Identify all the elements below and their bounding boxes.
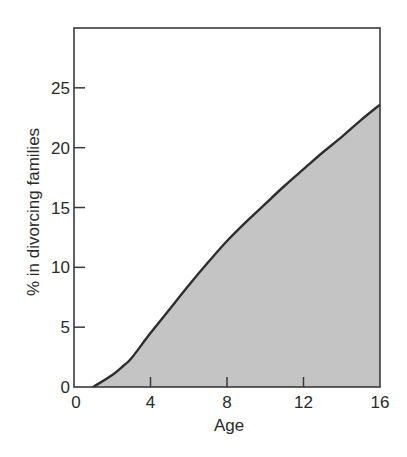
y-tick-label: 10 bbox=[51, 258, 70, 277]
x-tick-label: 8 bbox=[222, 393, 231, 412]
area-fill bbox=[93, 105, 380, 387]
x-tick-label: 12 bbox=[294, 393, 313, 412]
x-tick-label: 0 bbox=[71, 393, 80, 412]
y-axis-label: % in divorcing families bbox=[24, 128, 43, 296]
x-axis-label: Age bbox=[214, 416, 244, 435]
y-tick-label: 20 bbox=[51, 139, 70, 158]
x-tick-label: 16 bbox=[371, 393, 390, 412]
area-shape bbox=[93, 105, 380, 387]
y-tick-label: 15 bbox=[51, 199, 70, 218]
y-tick-label: 0 bbox=[61, 378, 70, 397]
area-chart: 0481216 0510152025 Age % in divorcing fa… bbox=[0, 0, 407, 457]
y-tick-label: 25 bbox=[51, 79, 70, 98]
y-axis-ticks: 0510152025 bbox=[51, 79, 85, 397]
x-tick-label: 4 bbox=[146, 393, 155, 412]
y-tick-label: 5 bbox=[61, 318, 70, 337]
